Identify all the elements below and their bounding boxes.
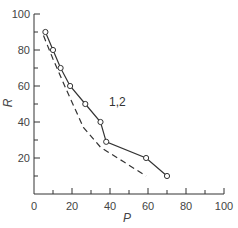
data-point-circle-icon (68, 83, 73, 88)
x-tick-label: 0 (31, 200, 37, 212)
data-point-circle-icon (144, 155, 149, 160)
y-tick-label: 40 (18, 116, 30, 128)
x-tick-label: 40 (104, 200, 116, 212)
x-tick-label: 80 (180, 200, 192, 212)
ticks (34, 14, 224, 194)
x-tick-label: 100 (215, 200, 233, 212)
curve-annotation: 1,2 (109, 95, 126, 109)
data-point-circle-icon (58, 65, 63, 70)
y-tick-label: 60 (18, 80, 30, 92)
data-point-circle-icon (164, 173, 169, 178)
x-tick-labels: 0 20 40 60 80 100 (31, 200, 233, 212)
data-point-circle-icon (98, 119, 103, 124)
data-point-markers (43, 29, 170, 178)
axes (34, 14, 224, 194)
x-tick-label: 60 (142, 200, 154, 212)
solid-curve-1-2 (45, 32, 167, 176)
data-point-circle-icon (104, 139, 109, 144)
data-point-circle-icon (83, 101, 88, 106)
dashed-curve (44, 36, 147, 176)
y-tick-label: 80 (18, 44, 30, 56)
x-tick-label: 20 (66, 200, 78, 212)
y-tick-label: 20 (18, 152, 30, 164)
y-tick-labels: 20 40 60 80 100 (12, 8, 30, 164)
y-tick-label: 100 (12, 8, 30, 20)
x-axis-label: P (123, 211, 131, 225)
chart: 0 20 40 60 80 100 20 40 60 80 100 P R 1,… (0, 0, 238, 228)
y-axis-label: R (1, 98, 15, 107)
data-point-circle-icon (50, 47, 55, 52)
data-point-circle-icon (43, 29, 48, 34)
